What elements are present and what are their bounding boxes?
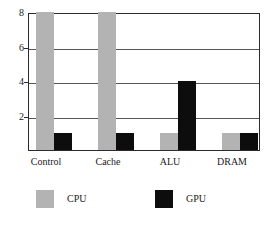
legend-swatch-cpu-icon <box>36 190 54 208</box>
plot-area <box>28 13 260 151</box>
y-tick-label-8: 8 <box>6 8 24 18</box>
x-tick-label-dram: DRAM <box>207 156 257 168</box>
bar-chart: 8 6 4 2 Control Cache ALU DRAM CPU <box>0 0 273 230</box>
legend-swatch-gpu-icon <box>155 190 173 208</box>
x-tick-label-control: Control <box>21 156 71 168</box>
legend-item-gpu: GPU <box>155 190 206 208</box>
bar-dram-gpu <box>240 133 258 150</box>
legend-label-cpu: CPU <box>67 194 86 204</box>
legend-item-cpu: CPU <box>36 190 86 208</box>
y-tick-label-2: 2 <box>6 112 24 122</box>
legend: CPU GPU <box>0 190 273 214</box>
y-tick-label-6: 6 <box>6 43 24 53</box>
x-tick-label-cache: Cache <box>83 156 133 168</box>
bar-alu-gpu <box>178 81 196 150</box>
gridline-6 <box>29 49 259 50</box>
bar-cache-cpu <box>98 12 116 150</box>
gridline-2 <box>29 118 259 119</box>
y-tick-label-4: 4 <box>6 77 24 87</box>
bar-alu-cpu <box>160 133 178 150</box>
bar-control-cpu <box>36 12 54 150</box>
legend-label-gpu: GPU <box>186 194 206 204</box>
x-tick-label-alu: ALU <box>145 156 195 168</box>
bar-cache-gpu <box>116 133 134 150</box>
gridline-4 <box>29 83 259 84</box>
bar-dram-cpu <box>222 133 240 150</box>
bar-control-gpu <box>54 133 72 150</box>
